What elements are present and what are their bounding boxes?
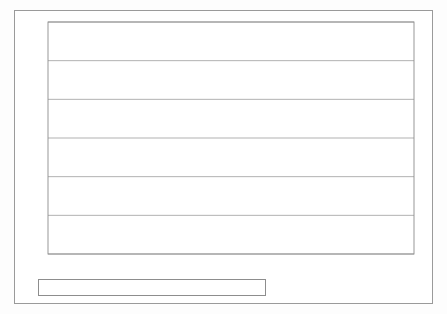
- chart-legend: [38, 279, 266, 296]
- plot-canvas: [0, 0, 447, 314]
- scanned-page: [0, 0, 447, 314]
- line-chart: [0, 0, 447, 314]
